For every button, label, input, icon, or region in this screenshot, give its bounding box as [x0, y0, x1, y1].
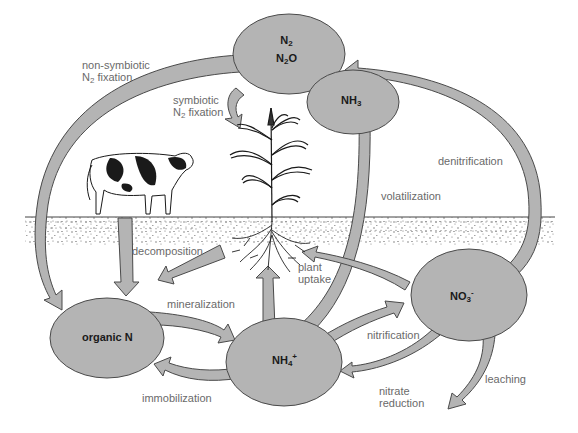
node-organic-n-label: organic N [82, 331, 133, 343]
node-nh4-label: NH4+ [272, 352, 297, 368]
label-plant-uptake: plant uptake [298, 261, 331, 285]
label-non-symbiotic-fixation: non-symbiotic N2 fixation [82, 59, 150, 87]
nitrogen-cycle-diagram: N2 N2O NH3 organic N NH4+ NO3- non-symbi… [0, 0, 578, 433]
node-n2-label: N2 N2O [276, 34, 297, 66]
corn-plant-illustration [230, 108, 312, 222]
label-denitrification: denitrification [438, 155, 503, 167]
arrow-leaching [448, 335, 495, 409]
label-immobilization: immobilization [142, 392, 212, 404]
label-mineralization: mineralization [167, 298, 235, 310]
node-no3-label: NO3- [450, 288, 474, 304]
label-decomposition: decomposition [132, 245, 203, 257]
label-volatilization: volatilization [381, 190, 441, 202]
label-nitrification: nitrification [367, 329, 420, 341]
node-nh3-label: NH3 [341, 94, 361, 108]
cow-illustration [87, 153, 193, 214]
label-leaching: leaching [485, 373, 526, 385]
label-symbiotic-fixation: symbiotic N2 fixation [173, 94, 223, 122]
label-nitrate-reduction: nitrate reduction [379, 385, 424, 409]
arrow-symbiotic-fixation [225, 88, 244, 128]
